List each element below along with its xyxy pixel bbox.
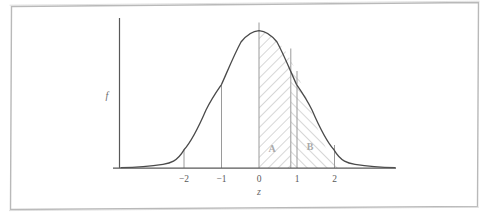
normal-curve-figure: −2 −1 0 1 2 f z A B [0,0,490,213]
x-tick-labels: −2 −1 0 1 2 [179,174,337,184]
x-tick-label-neg1: −1 [216,174,226,184]
x-tick-label-0: 0 [257,174,262,184]
x-tick-label-neg2: −2 [179,174,189,184]
x-tick-label-1: 1 [295,174,300,184]
normal-density-curve [121,31,395,168]
y-axis-label: f [106,90,110,101]
shaded-region-b [287,55,367,171]
region-label-a: A [268,143,276,154]
page-border [9,1,480,210]
region-label-b: B [307,141,314,152]
axes [113,18,396,168]
x-tick-label-2: 2 [332,174,337,184]
normal-distribution-chart: −2 −1 0 1 2 f z A B [0,0,490,213]
x-axis-label: z [256,186,261,197]
